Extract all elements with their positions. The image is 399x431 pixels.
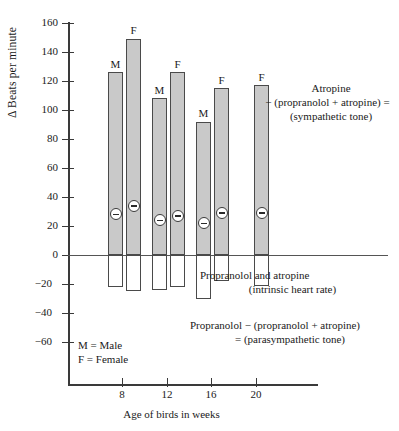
bar-12w-female-negative	[170, 255, 185, 287]
bar-tag-16w-male: M	[192, 107, 216, 119]
bar-tag-16w-female: F	[210, 74, 234, 86]
annotation-sympathetic-line1: Atropine	[268, 81, 394, 95]
annotation-intrinsic-line2: (intrinsic heart rate)	[200, 282, 385, 296]
bar-16w-female-positive	[214, 88, 229, 255]
bar-tag-12w-male: M	[148, 84, 172, 96]
bar-12w-male-negative	[152, 255, 167, 290]
x-axis-line	[68, 384, 318, 386]
bar-8w-female-negative	[126, 255, 141, 291]
y-tick-minus40	[62, 313, 74, 314]
bar-tag-8w-male: M	[104, 58, 128, 70]
bar-16w-male-positive	[196, 122, 211, 255]
annotation-sympathetic-line3: (sympathetic tone)	[268, 109, 394, 123]
y-label-0: 0	[24, 249, 58, 260]
marker-12w-female	[172, 210, 184, 222]
y-tick-100	[62, 110, 74, 111]
y-label-minus40: −40	[18, 307, 52, 318]
x-label-8: 8	[107, 388, 137, 400]
y-label-60: 60	[24, 162, 58, 173]
marker-16w-female	[216, 207, 228, 219]
x-tick-16	[211, 378, 212, 387]
y-label-160: 160	[24, 17, 58, 28]
y-label-40: 40	[24, 191, 58, 202]
x-label-20: 20	[241, 388, 271, 400]
x-tick-12	[167, 378, 168, 387]
y-tick-60	[62, 168, 74, 169]
marker-20w-female	[256, 207, 268, 219]
annotation-parasympathetic-line2: = (parasympathetic tone)	[190, 332, 390, 346]
annotation-parasympathetic-line1: Propranolol − (propranolol + atropine)	[190, 318, 399, 332]
bar-tag-12w-female: F	[166, 58, 190, 70]
bar-tag-8w-female: F	[122, 24, 146, 36]
annotation-intrinsic-line1: Propranolol and atropine	[200, 268, 399, 282]
y-label-120: 120	[24, 75, 58, 86]
marker-8w-male	[110, 208, 122, 220]
y-label-140: 140	[24, 46, 58, 57]
y-axis-line	[68, 22, 70, 385]
y-label-minus20: −20	[18, 278, 52, 289]
marker-8w-female	[128, 200, 140, 212]
y-tick-minus20	[62, 284, 74, 285]
y-tick-120	[62, 81, 74, 82]
x-label-16: 16	[196, 388, 226, 400]
y-label-minus60: −60	[18, 336, 52, 347]
y-tick-40	[62, 197, 74, 198]
y-tick-160	[62, 23, 74, 24]
bar-12w-female-positive	[170, 72, 185, 255]
y-label-20: 20	[24, 220, 58, 231]
y-tick-20	[62, 226, 74, 227]
chart-legend: M = Male F = Female	[78, 338, 128, 366]
bar-12w-male-positive	[152, 98, 167, 255]
bar-8w-female-positive	[126, 39, 141, 255]
bar-20w-female-positive	[254, 85, 269, 255]
legend-entry-male: M = Male	[78, 338, 128, 352]
x-tick-8	[122, 378, 123, 387]
marker-12w-male	[154, 214, 166, 226]
chart-figure: Δ Beats per minute 160 140 120 100 80 60…	[0, 0, 399, 431]
y-tick-140	[62, 52, 74, 53]
x-label-12: 12	[152, 388, 182, 400]
y-tick-minus60	[62, 342, 74, 343]
y-label-100: 100	[24, 104, 58, 115]
bar-8w-male-positive	[108, 72, 123, 255]
bar-8w-male-negative	[108, 255, 123, 287]
annotation-sympathetic-line2: − (propranolol + atropine) =	[256, 95, 399, 109]
y-tick-80	[62, 139, 74, 140]
legend-entry-female: F = Female	[78, 352, 128, 366]
marker-16w-male	[198, 217, 210, 229]
y-axis-title: Δ Beats per minute	[6, 0, 18, 118]
x-axis-title: Age of birds in weeks	[0, 408, 371, 420]
x-tick-20	[256, 378, 257, 387]
y-label-80: 80	[24, 133, 58, 144]
